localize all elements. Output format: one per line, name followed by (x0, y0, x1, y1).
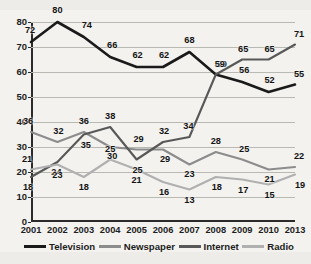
data-label-newspaper-2010: 21 (264, 175, 274, 184)
data-label-television-2001: 72 (25, 26, 35, 35)
data-label-newspaper-2008: 28 (211, 137, 221, 146)
data-label-radio-2006: 16 (159, 188, 169, 197)
data-label-newspaper-2005: 29 (133, 135, 143, 144)
data-label-television-2013: 55 (294, 70, 304, 79)
data-label-internet-2010: 65 (264, 45, 274, 54)
y-tick-label-20: 20 (16, 167, 27, 177)
x-tick-label-2009: 2009 (232, 226, 253, 235)
line-chart: 01020304050607080 2001200220032004200520… (0, 0, 311, 264)
x-tick-label-2006: 2006 (153, 226, 174, 235)
data-label-radio-2001: 21 (22, 155, 32, 164)
data-label-internet-2006: 32 (159, 127, 169, 136)
data-label-television-2009: 56 (239, 66, 249, 75)
x-tick-label-2010: 2010 (258, 226, 279, 235)
data-label-newspaper-2009: 25 (239, 145, 249, 154)
legend-swatch-television-icon (24, 245, 46, 248)
data-label-internet-2004: 38 (105, 112, 115, 121)
data-label-internet-2001: 18 (23, 183, 33, 192)
y-tick-mark-0 (28, 222, 31, 223)
x-tick-label-2013: 2013 (285, 226, 306, 235)
x-tick-label-2003: 2003 (73, 226, 94, 235)
y-tick-label-70: 70 (16, 42, 27, 52)
data-label-radio-2010: 15 (264, 191, 274, 200)
data-label-newspaper-2002: 32 (53, 127, 63, 136)
data-label-television-2007: 68 (184, 36, 194, 45)
plot-area: 01020304050607080 2001200220032004200520… (31, 22, 295, 222)
data-label-newspaper-2013: 22 (294, 152, 304, 161)
data-label-newspaper-2007: 23 (184, 170, 194, 179)
data-label-newspaper-2003: 36 (79, 117, 89, 126)
legend-swatch-internet-icon (179, 245, 201, 248)
data-label-radio-2013: 19 (295, 181, 305, 190)
legend-label-internet: Internet (204, 242, 239, 252)
x-tick-label-2008: 2008 (205, 226, 226, 235)
x-tick-label-2001: 2001 (21, 226, 42, 235)
data-label-internet-2008: 59 (215, 60, 225, 69)
legend-swatch-newspaper-icon (99, 245, 121, 248)
chart-legend: TelevisionNewspaperInternetRadio (24, 242, 294, 252)
legend-label-television: Television (49, 242, 95, 252)
data-label-internet-2013: 71 (294, 30, 304, 39)
data-label-internet-2007: 34 (183, 122, 193, 131)
legend-label-newspaper: Newspaper (124, 242, 175, 252)
y-tick-label-30: 30 (16, 142, 27, 152)
data-label-television-2006: 62 (159, 51, 169, 60)
y-tick-label-60: 60 (16, 67, 27, 77)
data-label-internet-2005: 25 (132, 166, 142, 175)
data-label-internet-2009: 65 (238, 45, 248, 54)
scan-artifact-top (0, 0, 311, 10)
y-tick-label-50: 50 (16, 92, 27, 102)
data-label-newspaper-2006: 29 (160, 155, 170, 164)
data-label-radio-2007: 13 (184, 196, 194, 205)
data-label-radio-2002: 23 (52, 171, 62, 180)
x-tick-label-2004: 2004 (100, 226, 121, 235)
data-label-radio-2003: 18 (79, 183, 89, 192)
data-label-radio-2004: 25 (105, 145, 115, 154)
data-label-radio-2005: 21 (131, 176, 141, 185)
data-label-television-2003: 74 (82, 21, 92, 30)
x-tick-label-2002: 2002 (47, 226, 68, 235)
data-label-television-2005: 62 (132, 51, 142, 60)
data-label-radio-2009: 17 (238, 186, 248, 195)
scan-artifact-bottom (0, 252, 311, 264)
legend-item-newspaper[interactable]: Newspaper (99, 242, 175, 252)
data-label-television-2010: 52 (264, 76, 274, 85)
x-tick-label-2007: 2007 (179, 226, 200, 235)
legend-item-internet[interactable]: Internet (179, 242, 239, 252)
data-label-radio-2008: 18 (212, 183, 222, 192)
data-label-internet-2003: 35 (81, 141, 91, 150)
data-label-television-2002: 80 (52, 6, 62, 15)
data-label-newspaper-2001: 36 (23, 117, 33, 126)
legend-item-radio[interactable]: Radio (242, 242, 294, 252)
data-label-television-2004: 66 (107, 41, 117, 50)
x-tick-label-2005: 2005 (126, 226, 147, 235)
legend-swatch-radio-icon (242, 245, 264, 248)
legend-item-television[interactable]: Television (24, 242, 95, 252)
legend-label-radio: Radio (267, 242, 294, 252)
y-tick-label-10: 10 (16, 192, 27, 202)
